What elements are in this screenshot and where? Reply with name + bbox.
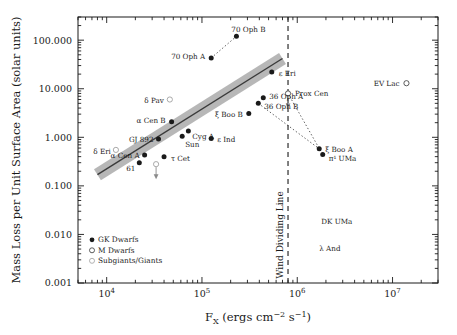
- point-label: 70 Oph B: [231, 25, 265, 34]
- y-tick-label: 100.000: [33, 35, 72, 46]
- marker-filled-circle: [186, 128, 191, 133]
- star-text-label: DK UMa: [321, 217, 353, 226]
- legend-label: Subgiants/Giants: [98, 256, 162, 265]
- y-tick-label: 10.000: [39, 83, 72, 94]
- legend-marker-m-dwarfs: [90, 248, 95, 253]
- y-tick-label: 1.000: [45, 132, 72, 143]
- y-tick-label: 0.100: [45, 180, 72, 191]
- point-label: ε Ind: [217, 135, 235, 144]
- y-tick-label: 0.001: [45, 277, 72, 288]
- point-label: α Cen A: [111, 151, 141, 160]
- legend-marker-subgiants-giants: [90, 258, 95, 263]
- point-label: Sun: [185, 140, 200, 149]
- marker-filled-circle: [256, 101, 261, 106]
- point-label: Prox Cen: [295, 89, 329, 98]
- point-label: EV Lac: [374, 79, 400, 88]
- legend-label: M Dwarfs: [98, 246, 135, 255]
- point-label: 36 Oph B: [264, 102, 298, 111]
- marker-filled-circle: [142, 153, 147, 158]
- point-label: ε Eri: [279, 69, 297, 78]
- marker-filled-circle: [261, 95, 266, 100]
- marker-filled-circle: [169, 119, 174, 124]
- marker-open-circle-light: [153, 162, 158, 167]
- point-label: ξ Boo B: [215, 110, 243, 119]
- legend-marker-gk-dwarfs: [90, 237, 95, 242]
- marker-filled-circle: [246, 111, 251, 116]
- point-label: 70 Oph A: [171, 52, 206, 61]
- point-label: α Cen B: [137, 116, 166, 125]
- point-label: τ Cet: [171, 154, 190, 163]
- marker-open-circle: [404, 81, 409, 86]
- star-text-label: λ And: [319, 244, 341, 253]
- point-label: δ Eri: [93, 147, 111, 156]
- plot-svg: 104105106107 100.00010.0001.0000.1000.01…: [0, 0, 457, 335]
- point-label: 61: [126, 164, 135, 173]
- y-tick-label: 0.010: [45, 229, 72, 240]
- xray-flux-mass-loss-scatter-plot: 104105106107 100.00010.0001.0000.1000.01…: [0, 0, 457, 335]
- marker-filled-circle: [269, 70, 274, 75]
- marker-filled-circle: [137, 160, 142, 165]
- point-label: π¹ UMa: [329, 154, 357, 163]
- marker-open-circle-light: [167, 97, 172, 102]
- wind-dividing-line-label: Wind Dividing Line: [275, 191, 285, 278]
- marker-filled-circle: [317, 146, 322, 151]
- point-label: GJ 892: [129, 135, 154, 144]
- point-label: ξ Boo A: [325, 145, 353, 154]
- marker-filled-circle: [209, 55, 214, 60]
- marker-filled-circle: [180, 134, 185, 139]
- marker-filled-circle: [162, 154, 167, 159]
- legend-label: GK Dwarfs: [98, 235, 139, 244]
- y-axis-title: Mass Loss per Unit Surface Area (solar u…: [9, 17, 23, 284]
- marker-filled-circle: [156, 137, 161, 142]
- marker-filled-circle: [234, 34, 239, 39]
- point-label: δ Pav: [144, 96, 164, 105]
